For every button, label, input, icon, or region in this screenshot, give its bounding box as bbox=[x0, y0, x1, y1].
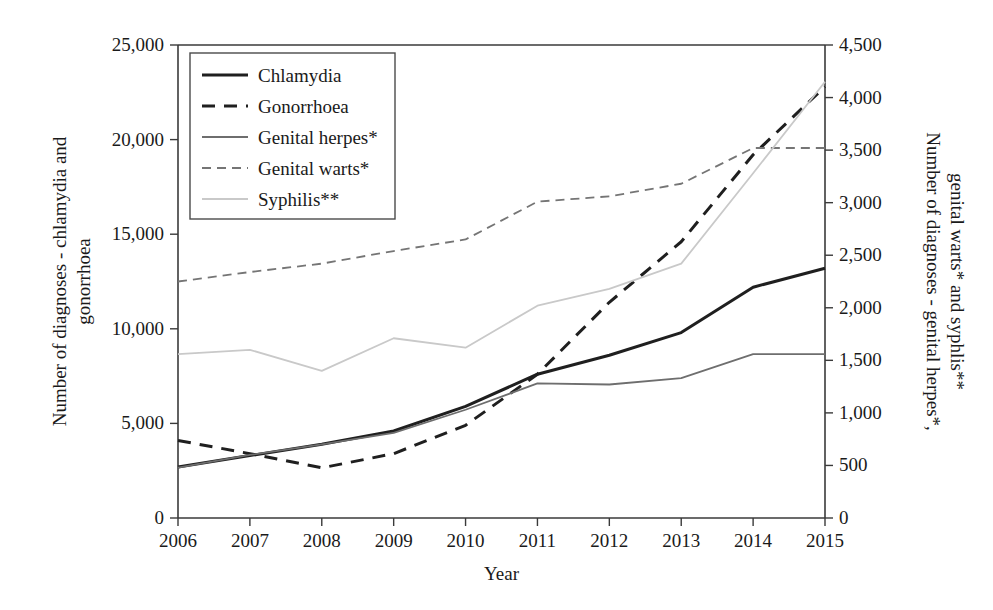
right-tick-label: 2,500 bbox=[839, 244, 882, 265]
right-tick-label: 0 bbox=[839, 507, 849, 528]
x-tick-label: 2009 bbox=[375, 530, 413, 551]
legend-label: Gonorrhoea bbox=[258, 96, 349, 117]
legend-label: Chlamydia bbox=[258, 65, 342, 86]
x-axis-ticks: 2006200720082009201020112012201320142015 bbox=[159, 518, 844, 551]
right-tick-label: 3,500 bbox=[839, 139, 882, 160]
legend-label: Syphilis** bbox=[258, 189, 339, 210]
x-tick-label: 2006 bbox=[159, 530, 197, 551]
left-tick-label: 25,000 bbox=[112, 34, 164, 55]
x-tick-label: 2007 bbox=[231, 530, 269, 551]
right-tick-label: 4,000 bbox=[839, 87, 882, 108]
series-line-genital-herpes bbox=[178, 354, 825, 468]
left-tick-label: 5,000 bbox=[121, 412, 164, 433]
legend-label: Genital herpes* bbox=[258, 127, 378, 148]
x-tick-label: 2012 bbox=[590, 530, 628, 551]
axis-titles: YearNumber of diagnoses - chlamydia andg… bbox=[49, 132, 968, 584]
right-tick-label: 2,000 bbox=[839, 297, 882, 318]
y-axis-right-title-line2: genital warts* and syphlis** bbox=[947, 173, 968, 390]
left-tick-label: 0 bbox=[155, 507, 165, 528]
x-axis-title: Year bbox=[484, 563, 520, 584]
right-tick-label: 4,500 bbox=[839, 34, 882, 55]
right-axis-ticks: 05001,0001,5002,0002,5003,0003,5004,0004… bbox=[825, 34, 882, 528]
x-tick-label: 2011 bbox=[519, 530, 556, 551]
legend-label: Genital warts* bbox=[258, 158, 369, 179]
chart-legend: ChlamydiaGonorrhoeaGenital herpes*Genita… bbox=[190, 53, 395, 219]
right-tick-label: 1,000 bbox=[839, 402, 882, 423]
right-tick-label: 500 bbox=[839, 454, 868, 475]
y-axis-left-title-line1: Number of diagnoses - chlamydia and bbox=[49, 136, 70, 426]
x-tick-label: 2010 bbox=[447, 530, 485, 551]
left-tick-label: 10,000 bbox=[112, 318, 164, 339]
chart-figure: 05,00010,00015,00020,00025,000 05001,000… bbox=[0, 0, 993, 610]
x-tick-label: 2015 bbox=[806, 530, 844, 551]
left-tick-label: 20,000 bbox=[112, 129, 164, 150]
left-tick-label: 15,000 bbox=[112, 223, 164, 244]
x-tick-label: 2008 bbox=[303, 530, 341, 551]
x-tick-label: 2014 bbox=[734, 530, 773, 551]
line-chart-svg: 05,00010,00015,00020,00025,000 05001,000… bbox=[0, 0, 993, 610]
y-axis-right-title-line1: Number of diagnoses - genital herpes*, bbox=[923, 132, 944, 431]
right-tick-label: 3,000 bbox=[839, 192, 882, 213]
right-tick-label: 1,500 bbox=[839, 349, 882, 370]
y-axis-left-title-line2: gonorrhoea bbox=[73, 238, 94, 325]
x-tick-label: 2013 bbox=[662, 530, 700, 551]
series-line-chlamydia bbox=[178, 268, 825, 467]
left-axis-ticks: 05,00010,00015,00020,00025,000 bbox=[112, 34, 178, 528]
